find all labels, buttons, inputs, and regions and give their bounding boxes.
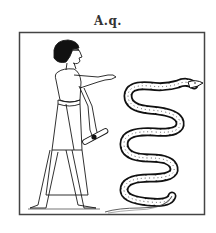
serpent-head-icon [188, 81, 203, 88]
serpent [105, 81, 203, 213]
engraving-plate [0, 0, 216, 233]
wig-icon [54, 40, 79, 63]
egyptian-figure [28, 40, 116, 209]
scroll-icon [82, 128, 109, 146]
